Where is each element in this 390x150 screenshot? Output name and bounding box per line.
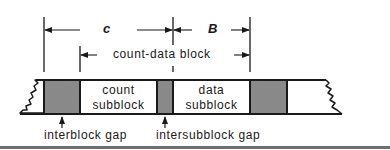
interblock-gap-left [44, 81, 80, 113]
reference-lines [44, 17, 250, 72]
callout-arrows [62, 117, 165, 128]
interblock-gap-label: interblock gap [44, 128, 127, 142]
intersubblock-gap-label: intersubblock gap [156, 128, 260, 142]
intersubblock-gap [157, 81, 173, 113]
dimension-label-c: c [103, 22, 111, 36]
count-subblock-line1: count [80, 83, 157, 98]
dimension-label-count-data-block: count-data block [113, 47, 211, 61]
count-subblock-line2: subblock [80, 98, 157, 113]
data-subblock-line1: data [173, 83, 250, 98]
data-subblock-line2: subblock [173, 98, 250, 113]
count-subblock-label: count subblock [80, 83, 157, 113]
data-subblock-label: data subblock [173, 83, 250, 113]
interblock-gap-right [250, 81, 287, 113]
tape-outline [20, 80, 44, 113]
dimension-label-b: B [208, 22, 218, 36]
bottom-rule [0, 146, 390, 149]
